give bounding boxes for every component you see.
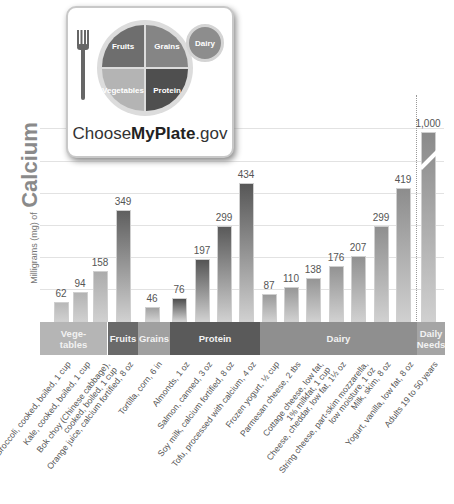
bar [396,188,411,322]
bar-value-label: 138 [293,264,333,275]
bar [195,259,210,322]
bar [217,226,232,322]
bar-value-label: 176 [316,252,356,263]
plate-grains: Grains [146,25,188,67]
bar [172,298,187,322]
bar [306,278,321,322]
choosemyplate-logo: Fruits Grains Vegetables Protein Dairy C… [66,6,234,158]
bar [262,294,277,322]
bar [329,266,344,322]
bar-value-label: 207 [338,242,378,253]
plate-graphic: Fruits Grains Vegetables Protein [97,20,193,116]
plate-fruits: Fruits [102,25,144,67]
bar-value-label: 299 [361,212,401,223]
y-axis-label: Milligrams (mg) of Calcium [17,103,43,303]
bar [93,271,108,322]
bar [145,307,160,322]
fork-icon [76,30,90,102]
bar-value-label: 1,000 [408,118,448,129]
bar [374,226,389,322]
daily-needs-divider [416,95,417,355]
plate-vegetables: Vegetables [102,69,144,111]
category-vegetables: Vege- tables [40,322,107,355]
category-protein: Protein [170,322,260,355]
plate-protein: Protein [146,69,188,111]
bar-value-label: 197 [182,245,222,256]
bar-value-label: 158 [80,257,120,268]
bar-value-label: 434 [226,169,266,180]
category-daily-needs: Daily Needs [417,322,445,355]
category-grains: Grains [138,322,170,355]
category-fruits: Fruits [108,322,138,355]
bar-value-label: 349 [103,196,143,207]
bar [351,256,366,322]
bar [73,292,88,322]
bar-value-label: 419 [383,174,423,185]
bar [116,210,131,322]
bar-value-label: 299 [204,212,244,223]
bar [54,302,69,322]
plate-dairy: Dairy [186,24,224,62]
brand-text: ChooseMyPlate.gov [68,124,232,144]
bar [239,183,254,322]
gridline [40,161,444,162]
bar [284,287,299,322]
category-dairy: Dairy [260,322,417,355]
bar-value-label: 76 [159,284,199,295]
